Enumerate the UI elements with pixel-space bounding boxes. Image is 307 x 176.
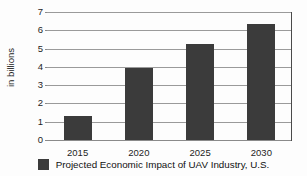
y-tick-label: 2 [29, 99, 43, 109]
x-tick-label: 2030 [231, 148, 292, 158]
x-tick-label: 2015 [47, 148, 108, 158]
y-tick-label: 0 [29, 135, 43, 145]
gridline-7 [47, 12, 292, 13]
y-tick-label: 6 [29, 26, 43, 36]
y-tick-label: 5 [29, 44, 43, 54]
x-tick-label: 2025 [170, 148, 231, 158]
x-axis-labels: 2015202020252030 [47, 143, 292, 157]
y-axis-title: in billions [5, 38, 16, 98]
bar-2020 [125, 68, 153, 140]
bar-chart-screenshot: 01234567 in billions 2015202020252030 Pr… [0, 0, 307, 176]
x-tick-label: 2020 [108, 148, 169, 158]
right-axis-line [291, 12, 292, 141]
y-tick-label: 3 [29, 80, 43, 90]
plot-area [47, 12, 292, 140]
y-tick-label: 7 [29, 7, 43, 17]
chart-legend: Projected Economic Impact of UAV Industr… [0, 159, 307, 170]
y-tick-label: 1 [29, 117, 43, 127]
legend-color-swatch [38, 159, 49, 170]
bar-2015 [64, 116, 92, 140]
y-tick-label: 4 [29, 62, 43, 72]
y-axis-ticks: 01234567 [27, 12, 43, 140]
bar-2030 [247, 24, 275, 140]
legend-label: Projected Economic Impact of UAV Industr… [56, 159, 270, 170]
gridline-0 [47, 140, 292, 141]
bar-2025 [186, 44, 214, 140]
